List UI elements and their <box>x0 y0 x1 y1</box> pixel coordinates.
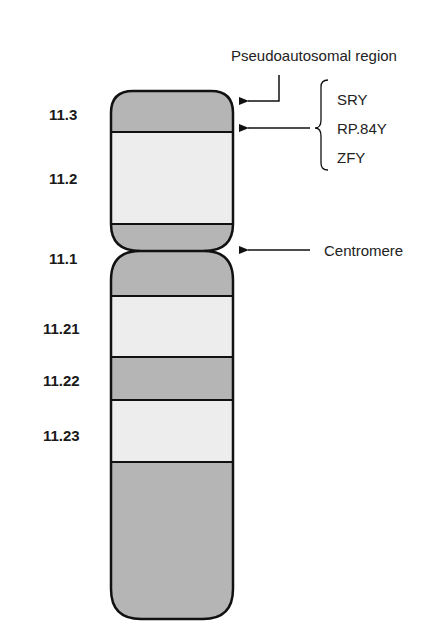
band-q12 <box>111 462 233 619</box>
band-label-11-23: 11.23 <box>43 427 80 444</box>
chromosome-p-arm <box>111 91 233 251</box>
band-11-3 <box>111 91 233 132</box>
band-11-2 <box>111 132 233 224</box>
annotations: Pseudoautosomal region SRY RP.84Y ZFY Ce… <box>231 47 403 259</box>
pseudoautosomal-label: Pseudoautosomal region <box>231 47 397 64</box>
band-label-11-1: 11.1 <box>49 250 77 267</box>
gene-label-zfy: ZFY <box>337 149 365 166</box>
centromere-label: Centromere <box>324 242 403 259</box>
band-11-22 <box>111 357 233 400</box>
band-11-23 <box>111 400 233 462</box>
band-11-1-upper <box>111 224 233 251</box>
band-label-11-2: 11.2 <box>49 170 77 187</box>
gene-label-rp84y: RP.84Y <box>337 120 387 137</box>
pseudoautosomal-arrow-icon <box>248 75 279 101</box>
brace-icon <box>315 80 328 170</box>
band-label-11-3: 11.3 <box>49 106 77 123</box>
chromosome-q-arm <box>111 251 233 619</box>
band-11-21 <box>111 296 233 357</box>
band-label-11-21: 11.21 <box>43 320 80 337</box>
band-labels: 11.3 11.2 11.1 11.21 11.22 11.23 <box>43 106 80 444</box>
chromosome-diagram: 11.3 11.2 11.1 11.21 11.22 11.23 Pseudoa… <box>0 0 446 643</box>
gene-label-sry: SRY <box>337 91 368 108</box>
band-label-11-22: 11.22 <box>43 372 80 389</box>
band-11-1-lower <box>111 251 233 296</box>
